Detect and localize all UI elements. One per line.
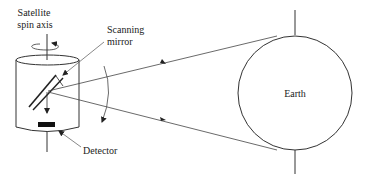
- ray-bottom: [48, 92, 277, 150]
- scanning-mirror: [29, 75, 63, 110]
- detector: [38, 122, 55, 127]
- mirror-label-line2: mirror: [107, 36, 133, 47]
- spin-axis-label-line2: spin axis: [17, 19, 52, 30]
- mirror-leader-line: [63, 42, 104, 75]
- ray-top: [48, 36, 277, 91]
- ray-bottom-arrow: [160, 117, 166, 121]
- detector-label: Detector: [83, 145, 118, 156]
- ray-top-arrow: [160, 59, 166, 64]
- detector-leader-line: [59, 131, 81, 147]
- scan-arc-arrow: [102, 66, 109, 122]
- satellite-body: [16, 55, 79, 132]
- earth-label: Earth: [284, 88, 306, 99]
- mirror-label-line1: Scanning: [107, 24, 144, 35]
- spin-axis-label-line1: Satellite: [18, 7, 51, 18]
- satellite-scanning-diagram: Satellite spin axis Scanning mirror Dete…: [0, 0, 367, 180]
- spin-rotation-icon: [32, 43, 59, 50]
